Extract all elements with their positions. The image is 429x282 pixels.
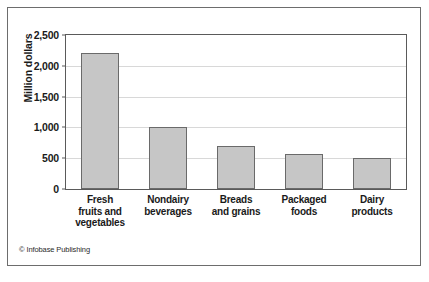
x-axis-category-label-line: and grains bbox=[202, 206, 270, 218]
x-axis-category-label-line: Fresh bbox=[66, 194, 134, 206]
x-axis-category-label-line: beverages bbox=[134, 206, 202, 218]
x-axis-category-label: Freshfruits andvegetables bbox=[66, 194, 134, 229]
y-axis-tick-label: 2,500 bbox=[34, 29, 59, 41]
y-axis-tick-label: 0 bbox=[53, 183, 59, 195]
y-axis-tick-mark bbox=[62, 158, 66, 159]
x-axis-category-label: Packagedfoods bbox=[270, 194, 338, 217]
y-axis-tick-label: 1,500 bbox=[34, 91, 59, 103]
x-axis-category-label: Dairyproducts bbox=[338, 194, 406, 217]
bar bbox=[353, 158, 391, 189]
y-axis-tick-mark bbox=[62, 189, 66, 190]
y-axis-tick-label: 500 bbox=[42, 152, 59, 164]
y-axis-tick-label: 1,000 bbox=[34, 121, 59, 133]
chart-figure: Million dollars 05001,0001,5002,0002,500… bbox=[7, 7, 421, 266]
y-axis-tick-label: 2,000 bbox=[34, 60, 59, 72]
plot-area: 05001,0001,5002,0002,500Freshfruits andv… bbox=[65, 34, 407, 190]
x-axis-category-label: Breadsand grains bbox=[202, 194, 270, 217]
x-axis-category-label-line: vegetables bbox=[66, 217, 134, 229]
x-axis-category-label-line: foods bbox=[270, 206, 338, 218]
x-axis-category-label-line: Breads bbox=[202, 194, 270, 206]
y-axis-tick-mark bbox=[62, 127, 66, 128]
bar bbox=[285, 154, 323, 189]
bar bbox=[81, 53, 119, 189]
copyright-notice: © Infobase Publishing bbox=[19, 245, 90, 254]
bar bbox=[149, 127, 187, 189]
y-axis-tick-mark bbox=[62, 35, 66, 36]
x-axis-category-label: Nondairybeverages bbox=[134, 194, 202, 217]
bar bbox=[217, 146, 255, 189]
x-axis-category-label-line: Packaged bbox=[270, 194, 338, 206]
x-axis-category-label-line: fruits and bbox=[66, 206, 134, 218]
x-axis-category-label-line: Nondairy bbox=[134, 194, 202, 206]
x-axis-category-label-line: Dairy bbox=[338, 194, 406, 206]
y-axis-tick-mark bbox=[62, 96, 66, 97]
x-axis-category-label-line: products bbox=[338, 206, 406, 218]
y-axis-tick-mark bbox=[62, 65, 66, 66]
